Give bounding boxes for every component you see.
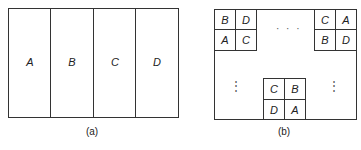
cell-label: A: [342, 14, 349, 26]
panel-a-caption: (a): [86, 126, 98, 137]
vertical-ellipsis-right: ⋮: [328, 79, 340, 93]
strip-label-b: B: [68, 56, 75, 68]
cell-label: B: [221, 14, 228, 26]
cell-label: D: [270, 104, 278, 116]
vertical-ellipsis-left: ⋮: [230, 79, 242, 93]
strip-label-d: D: [153, 56, 161, 68]
panel-a-divider-1: [50, 8, 51, 118]
strip-label-c: C: [111, 56, 119, 68]
cell-label: D: [342, 34, 350, 46]
cell-label: B: [291, 83, 298, 95]
cell-label: C: [321, 14, 329, 26]
cell-label: D: [242, 14, 250, 26]
panel-b-caption: (b): [278, 126, 290, 137]
cell-label: C: [242, 34, 250, 46]
cell-label: C: [270, 83, 278, 95]
cell-label: A: [221, 34, 228, 46]
horizontal-ellipsis: · · ·: [276, 23, 302, 34]
panel-a-divider-2: [93, 8, 94, 118]
cell-label: B: [321, 34, 328, 46]
panel-a-divider-3: [135, 8, 136, 118]
cell-label: A: [291, 104, 298, 116]
strip-label-a: A: [26, 56, 33, 68]
